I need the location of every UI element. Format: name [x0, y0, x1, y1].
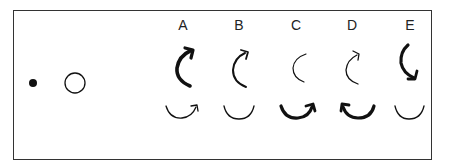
- arc-c-bottom-icon: [281, 104, 315, 118]
- filled-dot-icon: [29, 79, 37, 87]
- arc-e-top-icon: [401, 45, 417, 79]
- hollow-circle-icon: [65, 73, 85, 93]
- arc-a-bottom-icon: [166, 105, 198, 118]
- arc-b-bottom-icon: [224, 106, 254, 119]
- arc-d-bottom-icon: [341, 104, 374, 118]
- diagram-canvas: [0, 0, 452, 167]
- arc-e-bottom-icon: [395, 106, 424, 119]
- arc-d-top-icon: [346, 51, 359, 84]
- arc-c-top-icon: [293, 54, 306, 82]
- arc-a-top-icon: [177, 48, 193, 86]
- arc-b-top-icon: [233, 50, 248, 87]
